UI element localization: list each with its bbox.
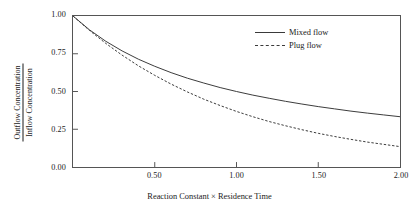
y-axis-denominator: Inflow Concentration [24,64,34,142]
legend-line-sample-dashed [255,45,285,47]
chart-figure: 1.00 0.75 0.50 0.25 0.00 Outflow Concent… [0,0,419,215]
x-tick-marks [155,162,319,167]
legend-item-mixed-flow: Mixed flow [255,26,385,39]
y-tick-marks [73,54,78,130]
y-tick-label: 0.50 [30,87,66,95]
y-tick-label: 0.75 [30,49,66,57]
plot-area: Mixed flow Plug flow [72,15,401,168]
x-tick-label: 1.50 [299,171,339,181]
legend-label: Mixed flow [289,26,328,39]
y-tick-label: 0.00 [30,164,66,172]
legend-label: Plug flow [289,39,322,52]
x-axis-tick-labels: 0.50 1.00 1.50 2.00 [72,171,401,183]
y-axis-fraction: Outflow Concentration Inflow Concentrati… [13,64,34,142]
y-tick-label: 0.25 [30,126,66,134]
chart-legend: Mixed flow Plug flow [255,26,385,52]
x-tick-label: 0.50 [134,171,174,181]
y-tick-label: 1.00 [30,11,66,19]
x-axis-title: Reaction Constant × Residence Time [0,192,419,202]
x-tick-label: 1.00 [217,171,257,181]
legend-item-plug-flow: Plug flow [255,39,385,52]
legend-line-sample-solid [255,32,285,34]
y-axis-numerator: Outflow Concentration [13,64,23,142]
y-axis-title: Outflow Concentration Inflow Concentrati… [13,28,34,178]
y-axis-tick-labels: 1.00 0.75 0.50 0.25 0.00 [30,15,66,168]
x-tick-label: 2.00 [381,171,419,181]
